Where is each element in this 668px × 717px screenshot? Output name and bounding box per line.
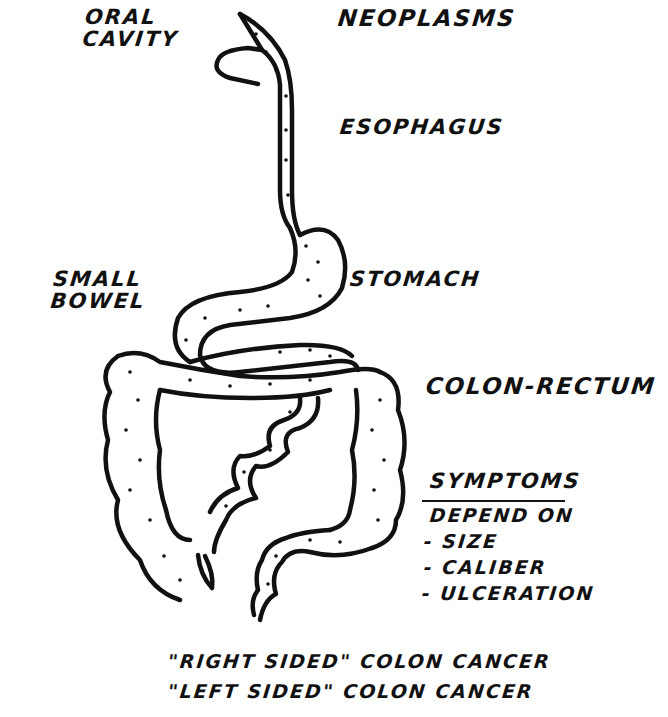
- appendix-outline: [198, 555, 212, 588]
- descending-colon-outline: [372, 372, 405, 548]
- stomach-inner-curve: [175, 228, 296, 362]
- label-small: Small: [52, 268, 149, 290]
- transverse-colon-top: [118, 353, 380, 377]
- symptoms-divider: [422, 500, 565, 502]
- descending-colon-inner: [330, 390, 357, 530]
- label-stomach: Stomach: [349, 268, 482, 290]
- label-cavity: Cavity: [82, 28, 180, 50]
- label-esophagus: Esophagus: [339, 116, 505, 138]
- ascending-colon-inner: [156, 390, 190, 540]
- duodenum-outline: [190, 345, 352, 362]
- symptoms-heading: Symptoms: [429, 470, 582, 492]
- label-small-bowel: Small Bowel: [50, 268, 149, 312]
- esophagus-right-wall: [262, 50, 290, 228]
- transverse-colon-bottom: [160, 390, 330, 398]
- small-bowel-outline: [214, 398, 318, 552]
- label-bowel: Bowel: [50, 290, 147, 312]
- symptom-item-ulceration: - Ulceration: [421, 584, 596, 604]
- label-colon-rectum: Colon-Rectum: [425, 374, 658, 398]
- gi-tract-diagram: [0, 0, 668, 717]
- symptom-item-size: - Size: [423, 532, 499, 552]
- footer-right-sided: "Right sided" colon cancer: [167, 652, 552, 672]
- label-oral: Oral: [84, 6, 182, 28]
- symptoms-subheading: Depend on: [429, 506, 575, 526]
- label-neoplasms: Neoplasms: [337, 6, 517, 30]
- footer-left-sided: "Left sided" colon cancer: [167, 682, 535, 702]
- label-oral-cavity: Oral Cavity: [82, 6, 182, 50]
- sigmoid-outline: [260, 548, 372, 620]
- symptom-item-caliber: - Caliber: [423, 558, 548, 578]
